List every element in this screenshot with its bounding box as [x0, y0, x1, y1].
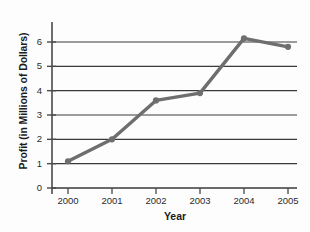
profit-line	[68, 38, 288, 161]
x-axis	[68, 188, 288, 194]
data-point-2003	[197, 90, 203, 96]
data-point-2002	[153, 97, 159, 103]
data-point-2000	[65, 158, 71, 164]
plot-area	[0, 0, 310, 232]
y-axis	[47, 22, 56, 194]
data-point-2005	[285, 44, 291, 50]
data-point-2004	[241, 35, 247, 41]
gridlines	[52, 42, 297, 188]
data-point-2001	[109, 136, 115, 142]
line-chart-figure: Profit (in Millions of Dollars) Year 0 1…	[0, 0, 310, 232]
data-series-profit	[68, 38, 288, 161]
